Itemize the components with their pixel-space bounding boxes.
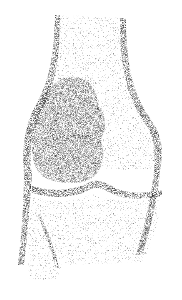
stipple-drawing <box>0 0 182 300</box>
knee-illustration <box>0 0 182 300</box>
